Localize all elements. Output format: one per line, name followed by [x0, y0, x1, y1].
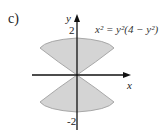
x-axis-arrow-icon [123, 72, 131, 78]
curve-figure [0, 0, 164, 137]
y-tick-bottom: -2 [67, 116, 76, 127]
y-axis-label: y [66, 13, 71, 24]
y-axis-arrow-icon [74, 14, 80, 22]
equation-label: x² = y²(4 − y²) [95, 24, 158, 35]
part-label: c) [8, 12, 19, 26]
x-axis-label: x [127, 80, 132, 91]
y-tick-top: 2 [69, 25, 75, 36]
